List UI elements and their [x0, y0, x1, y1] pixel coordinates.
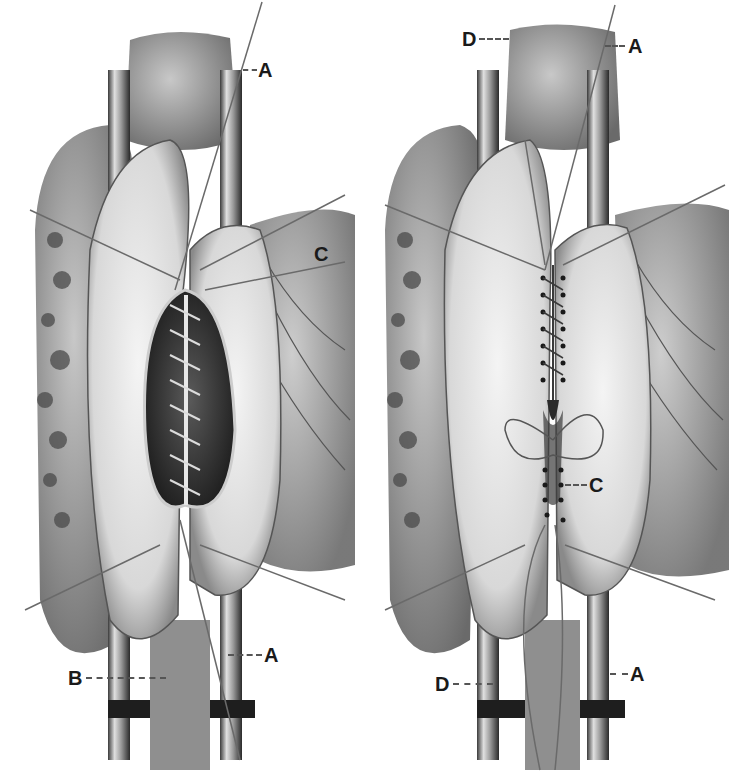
label-a-bottom-right: A [630, 664, 644, 684]
label-c: C [314, 244, 328, 264]
leader-line-d-bottom [453, 683, 493, 685]
surgical-drawing-right [365, 0, 729, 772]
leader-line-d-top [479, 38, 509, 40]
leader-line-a-top [243, 69, 257, 71]
illustration-panel-left: A C A B [0, 0, 365, 772]
label-d-top: D [462, 29, 476, 49]
label-a-top: A [258, 60, 272, 80]
surgical-drawing-left [0, 0, 365, 772]
label-a-bottom: A [264, 645, 278, 665]
label-d-bottom: D [435, 674, 449, 694]
label-c-right: C [589, 475, 603, 495]
leader-line-a-bottom [228, 654, 262, 656]
leader-line-a-top-right [605, 45, 625, 47]
leader-line-a-bottom-right [610, 673, 628, 675]
label-a-top-right: A [628, 36, 642, 56]
leader-line-b [86, 677, 166, 679]
illustration-panel-right: D A C D A [365, 0, 729, 772]
bowel-closed-right [555, 224, 651, 595]
leader-line-c-right [565, 484, 587, 486]
label-b: B [68, 668, 82, 688]
